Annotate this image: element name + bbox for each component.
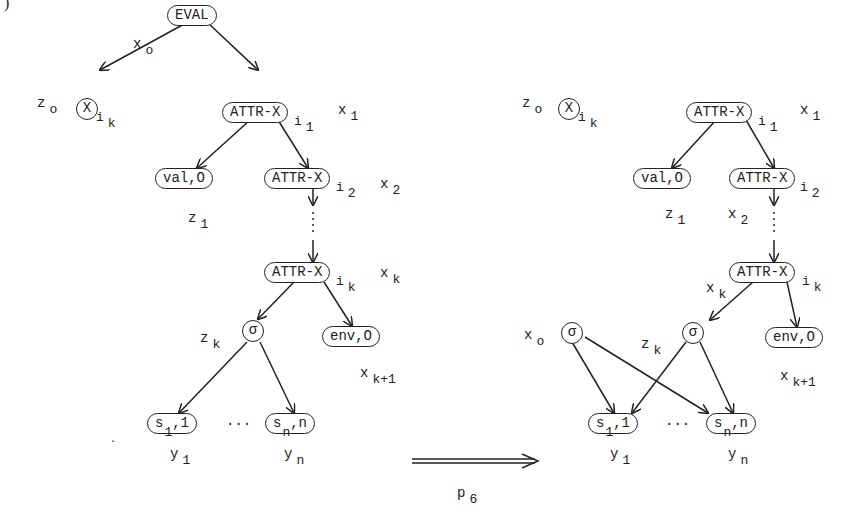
r-edge-sigmak-sn xyxy=(700,342,733,413)
node-attr-xi2: ATTR-X xyxy=(264,168,330,189)
label-x1: x1 xyxy=(338,102,358,118)
r-node-attr-xik: ATTR-X xyxy=(729,262,795,283)
label-z0: zo xyxy=(37,95,57,111)
r-node-sigmak: σ xyxy=(682,322,704,344)
label-yn: yn xyxy=(284,446,304,462)
r-label-x0: xo xyxy=(524,327,544,343)
r-label-xk1: xk+1 xyxy=(780,368,816,384)
node-sn: sn,n xyxy=(265,413,315,434)
r-node-attr-xi2: ATTR-X xyxy=(729,168,795,189)
r-node-sn: sn,n xyxy=(706,413,756,434)
label-x2: x2 xyxy=(380,176,400,192)
node-val0: val,O xyxy=(155,168,213,189)
r-edge-attr1-val xyxy=(672,120,716,168)
r-ellipsis: ... xyxy=(665,413,690,429)
ellipsis: ... xyxy=(226,413,251,429)
r-edge-attrk-env xyxy=(787,282,797,327)
node-attr-xi1-subscript: i1 xyxy=(294,114,314,129)
edges-layer xyxy=(0,0,861,523)
node-attr-xi1: ATTR-X xyxy=(222,102,288,123)
r-label-x2: x2 xyxy=(728,206,748,222)
edge-attr1-val xyxy=(197,120,250,168)
label-zk: zk xyxy=(200,330,220,346)
node-sigma: σ xyxy=(242,320,264,342)
r-node-x-ik-subscript: ik xyxy=(578,110,598,125)
label-xk: xk xyxy=(380,265,400,281)
edge-eval-attr1 xyxy=(208,23,258,70)
edge-attrk-sigma xyxy=(258,282,294,319)
r-node-attr-xi2-subscript: i2 xyxy=(800,180,820,195)
r-node-attr-xi1-subscript: i1 xyxy=(758,114,778,129)
edge-sigma-s1 xyxy=(179,342,247,413)
r-label-z0: zo xyxy=(522,95,542,111)
r-label-yn: yn xyxy=(728,446,748,462)
r-edge-sigma0-s1 xyxy=(572,342,614,413)
label-y1: y1 xyxy=(170,446,190,462)
node-attr-xik-subscript: ik xyxy=(336,274,356,289)
r-node-val0: val,O xyxy=(633,168,691,189)
node-x-ik-subscript: ik xyxy=(96,110,116,125)
r-label-x1: x1 xyxy=(800,102,820,118)
label-z1: z1 xyxy=(188,210,208,226)
node-env0: env,O xyxy=(322,326,380,347)
node-x-ik: X xyxy=(76,98,98,120)
stray-dot: · xyxy=(110,436,116,447)
r-node-attr-xik-subscript: ik xyxy=(802,274,822,289)
node-attr-xi2-subscript: i2 xyxy=(336,180,356,195)
transition-label: p6 xyxy=(457,485,477,501)
r-label-y1: y1 xyxy=(610,446,630,462)
node-s1: s1,1 xyxy=(147,413,197,434)
edge-sigma-sn xyxy=(260,342,294,413)
label-xk1: xk+1 xyxy=(360,365,396,381)
r-label-z1: z1 xyxy=(665,206,685,222)
node-attr-xik: ATTR-X xyxy=(264,262,330,283)
r-node-env0: env,O xyxy=(765,327,823,348)
r-label-zk: zk xyxy=(641,336,661,352)
r-label-xk: xk xyxy=(706,280,726,296)
r-node-x-ik: X xyxy=(558,98,580,120)
transition-arrowhead xyxy=(522,454,538,468)
label-x0: xo xyxy=(133,36,153,52)
r-node-s1: s1,1 xyxy=(588,413,638,434)
r-node-attr-xi1: ATTR-X xyxy=(686,102,752,123)
node-eval: EVAL xyxy=(167,5,217,26)
r-node-sigma0: σ xyxy=(561,322,583,344)
